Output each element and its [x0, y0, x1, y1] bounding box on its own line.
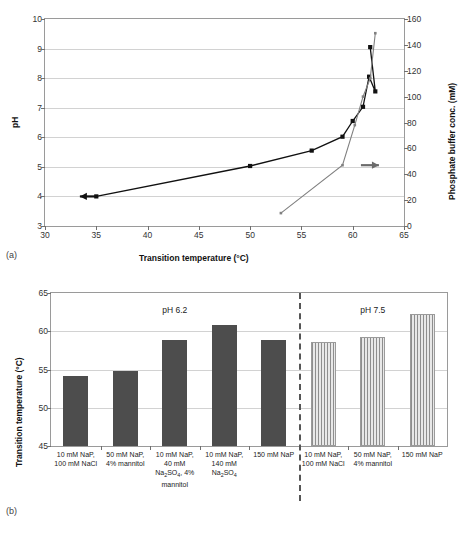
- data-point-marker: [361, 105, 365, 109]
- panel-a-plot-area: 3456789100204060801001201401603035404550…: [44, 18, 405, 227]
- y-right-tick-label: 100: [407, 92, 421, 102]
- data-point-marker: [362, 95, 365, 98]
- y-right-tickmark: [404, 45, 408, 46]
- data-point-marker: [310, 149, 314, 153]
- bar: [212, 325, 237, 446]
- bar: [63, 376, 88, 446]
- y-tickmark: [47, 408, 51, 409]
- group-label-ph-6-2: pH 6.2: [162, 305, 187, 315]
- data-point-marker: [369, 77, 372, 80]
- y-tickmark: [47, 370, 51, 371]
- y-right-tick-label: 120: [407, 66, 421, 76]
- data-point-marker: [248, 164, 252, 168]
- y-right-tickmark: [404, 200, 408, 201]
- data-point-marker: [354, 124, 357, 127]
- panel-a: pH Phosphate buffer conc. (mM) Transitio…: [0, 0, 461, 270]
- series-line-phosphate: [281, 33, 375, 213]
- bar: [410, 314, 435, 446]
- gridline: [51, 331, 447, 332]
- gridline: [51, 370, 447, 371]
- bar: [162, 340, 187, 446]
- bar: [311, 342, 336, 446]
- series-line-ph: [96, 47, 375, 196]
- panel-b-plot-area: 455055606510 mM NaP,100 mM NaCl50 mM NaP…: [50, 292, 448, 447]
- x-tickmark: [250, 226, 251, 230]
- panel-a-series-layer: [45, 19, 404, 226]
- y-right-tick-label: 60: [407, 143, 416, 153]
- bar-category-label: 150 mM NaP: [388, 450, 456, 459]
- bar: [360, 337, 385, 446]
- x-tick-label: 35: [92, 230, 101, 240]
- figure-container: pH Phosphate buffer conc. (mM) Transitio…: [0, 0, 461, 541]
- y-right-tick-label: 80: [407, 118, 416, 128]
- x-tick-label: 50: [245, 230, 254, 240]
- panel-b-y-title: Transition temperature (°C): [14, 357, 24, 467]
- bar: [113, 371, 138, 446]
- right-arrow-annotation: [361, 162, 379, 169]
- data-point-marker: [374, 32, 377, 35]
- x-tickmark: [353, 226, 354, 230]
- data-point-marker: [368, 45, 372, 49]
- gridline: [51, 408, 447, 409]
- y-right-tick-label: 140: [407, 40, 421, 50]
- y-right-tickmark: [404, 174, 408, 175]
- x-tick-label: 45: [194, 230, 203, 240]
- y-right-tickmark: [404, 97, 408, 98]
- x-tick-label: 60: [348, 230, 357, 240]
- data-point-marker: [340, 135, 344, 139]
- panel-a-x-title: Transition temperature (°C): [139, 253, 249, 263]
- y-right-tickmark: [404, 123, 408, 124]
- y-right-tickmark: [404, 148, 408, 149]
- y-right-tickmark: [404, 71, 408, 72]
- panel-b-label: (b): [6, 506, 17, 516]
- x-tick-label: 65: [399, 230, 408, 240]
- x-tickmark: [148, 226, 149, 230]
- x-tick-label: 40: [143, 230, 152, 240]
- bar: [261, 340, 286, 446]
- y-right-tickmark: [404, 19, 408, 20]
- panel-b: Transition temperature (°C) 455055606510…: [0, 270, 461, 541]
- y-right-tick-label: 40: [407, 169, 416, 179]
- y-right-tick-label: 20: [407, 195, 416, 205]
- data-point-marker: [341, 164, 344, 167]
- group-label-ph-7-5: pH 7.5: [360, 305, 385, 315]
- y-tickmark: [47, 446, 51, 447]
- panel-a-y-left-title: pH: [10, 117, 20, 128]
- data-point-marker: [280, 212, 283, 215]
- y-tickmark: [47, 293, 51, 294]
- group-divider: [299, 293, 301, 501]
- panel-a-label: (a): [6, 250, 17, 260]
- x-tick-label: 55: [297, 230, 306, 240]
- data-point-marker: [373, 89, 377, 93]
- x-tickmark: [404, 226, 405, 230]
- left-arrow-annotation: [80, 193, 98, 200]
- y-tickmark: [47, 331, 51, 332]
- x-tickmark: [96, 226, 97, 230]
- x-tickmark: [45, 226, 46, 230]
- data-point-marker: [351, 119, 355, 123]
- panel-a-y-right-title: Phosphate buffer conc. (mM): [447, 83, 457, 200]
- x-tickmark: [199, 226, 200, 230]
- x-tickmark: [301, 226, 302, 230]
- y-right-tick-label: 160: [407, 14, 421, 24]
- x-tick-label: 30: [40, 230, 49, 240]
